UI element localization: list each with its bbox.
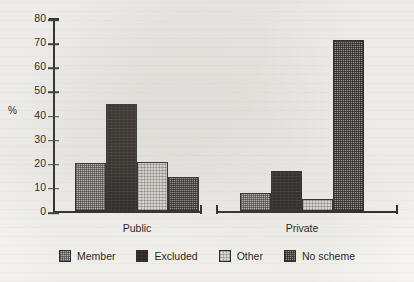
- chart-legend: MemberExcludedOtherNo scheme: [0, 250, 414, 262]
- legend-swatch-icon: [219, 250, 231, 262]
- y-tick-mark: [48, 67, 59, 69]
- bar-private-member: [240, 193, 271, 211]
- y-axis-tick-labels: 80706050403020100: [24, 0, 46, 282]
- y-tick-label: 60: [26, 60, 46, 72]
- bar-private-other: [302, 199, 333, 211]
- x-axis-break-cap-right: [216, 205, 218, 214]
- legend-item-no-scheme[interactable]: No scheme: [284, 250, 355, 262]
- x-axis-end-cap: [396, 205, 398, 214]
- y-tick-label: 30: [26, 133, 46, 145]
- y-axis-label: %: [8, 105, 17, 116]
- bar-private-excluded: [271, 171, 302, 211]
- legend-item-other[interactable]: Other: [219, 250, 263, 262]
- y-tick-label: 10: [26, 181, 46, 193]
- legend-label: Member: [77, 250, 116, 262]
- plot-area: [53, 18, 398, 213]
- x-axis-label-public: Public: [123, 222, 152, 234]
- y-tick-mark: [48, 140, 59, 142]
- y-tick-mark: [48, 92, 59, 94]
- x-axis-line-private: [216, 211, 398, 213]
- y-tick-mark: [48, 164, 59, 166]
- y-tick-label: 70: [26, 36, 46, 48]
- legend-label: Other: [237, 250, 263, 262]
- y-tick-mark: [48, 43, 59, 45]
- bar-public-excluded: [106, 104, 137, 211]
- bar-private-no-scheme: [333, 40, 364, 211]
- legend-swatch-icon: [136, 250, 148, 262]
- y-tick-label: 40: [26, 109, 46, 121]
- legend-label: Excluded: [154, 250, 197, 262]
- legend-swatch-icon: [59, 250, 71, 262]
- legend-label: No scheme: [302, 250, 355, 262]
- y-tick-mark: [48, 19, 59, 21]
- y-tick-mark: [48, 212, 59, 214]
- bar-chart: % 80706050403020100 MemberExcludedOtherN…: [0, 0, 414, 282]
- y-tick-label: 80: [26, 12, 46, 24]
- bar-public-no-scheme: [168, 177, 199, 211]
- y-tick-label: 50: [26, 84, 46, 96]
- legend-item-member[interactable]: Member: [59, 250, 116, 262]
- x-axis-break-cap-left: [200, 205, 202, 214]
- x-axis-label-private: Private: [286, 222, 319, 234]
- y-tick-mark: [48, 188, 59, 190]
- y-tick-label: 20: [26, 157, 46, 169]
- y-tick-mark: [48, 116, 59, 118]
- bar-public-member: [75, 163, 106, 211]
- legend-item-excluded[interactable]: Excluded: [136, 250, 197, 262]
- x-axis-line-public: [53, 211, 201, 213]
- y-tick-label: 0: [26, 205, 46, 217]
- bar-public-other: [137, 162, 168, 211]
- legend-swatch-icon: [284, 250, 296, 262]
